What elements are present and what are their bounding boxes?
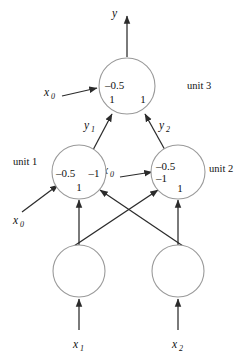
input1-label: x (72, 338, 79, 350)
unit3-bias-input-sub: 0 (51, 92, 55, 101)
output-label: y (111, 7, 118, 20)
edge-bias-unit2 (120, 172, 152, 177)
unit2-weight-bottom: 1 (177, 182, 183, 194)
edge-unit1-unit3-sub: 1 (91, 125, 95, 134)
unit2-bias: –0.5 (155, 160, 176, 172)
node-input1[interactable] (53, 245, 105, 297)
edge-unit1-unit3 (93, 114, 112, 150)
unit1-bias-input-label: x (12, 214, 19, 226)
unit3-bias: –0.5 (104, 79, 125, 91)
unit1-weight-bottom: 1 (76, 181, 82, 193)
unit1-bias: –0.5 (55, 167, 76, 179)
unit3-name: unit 3 (187, 80, 211, 91)
input1-sub: 1 (80, 344, 84, 353)
unit2-weight-second: –1 (155, 172, 167, 184)
unit3-bias-input-label: x (43, 86, 50, 98)
neural-network-diagram: y x 0 y 1 y 2 x 0 x 0 x 1 x 2 (0, 0, 250, 356)
edge-bias-unit3 (62, 88, 97, 96)
edge-bias-unit1 (22, 185, 58, 212)
edge-unit2-unit3-sub: 2 (166, 125, 170, 134)
input2-label: x (171, 338, 178, 350)
network-svg: y x 0 y 1 y 2 x 0 x 0 x 1 x 2 (0, 0, 250, 356)
unit1-weight-right: –1 (88, 167, 100, 179)
node-input2[interactable] (152, 245, 204, 297)
edge-unit2-unit3-label: y (158, 119, 165, 132)
unit1-bias-input-sub: 0 (20, 220, 24, 229)
unit3-weight-right: 1 (140, 93, 146, 105)
unit2-bias-input-sub: 0 (110, 170, 114, 179)
unit1-name: unit 1 (13, 156, 37, 167)
unit2-name: unit 2 (209, 163, 233, 174)
input2-sub: 2 (179, 344, 183, 353)
unit3-weight-left: 1 (109, 93, 115, 105)
edge-unit1-unit3-label: y (83, 119, 90, 132)
